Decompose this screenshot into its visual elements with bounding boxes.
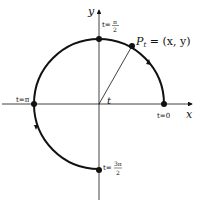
point-pt [129,43,135,49]
x-axis-label: x [186,108,193,121]
point-t3pi2 [96,167,102,173]
radius-line [99,46,132,104]
svg-text:2: 2 [116,169,120,176]
point-label: Pt = (x, y) [135,35,190,49]
label-t0: t=0 [157,112,170,120]
svg-text:π: π [113,18,117,25]
svg-text:3π: 3π [114,160,122,167]
svg-text:t=: t= [103,164,112,172]
label-t3pi2: t= 3π 2 [103,160,122,176]
unit-circle-diagram: y x Pt = (x, y) t t=0 t=π t= π 2 t= 3π 2 [0,0,200,208]
point-t0 [161,101,167,107]
point-tpi [31,101,37,107]
y-axis-label: y [87,5,95,18]
label-tpi: t=π [16,96,30,104]
point-tpi2 [96,36,102,42]
label-tpi2: t= π 2 [102,18,119,33]
svg-text:2: 2 [113,26,117,33]
svg-text:t=: t= [102,21,111,29]
